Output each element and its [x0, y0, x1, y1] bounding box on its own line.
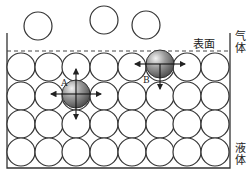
liquid-molecule — [90, 138, 118, 166]
liquid-molecule — [118, 110, 146, 138]
liquid-molecule — [35, 110, 63, 138]
molecule-diagram-canvas — [0, 0, 249, 177]
liquid-molecule — [201, 82, 229, 110]
liquid-molecule — [201, 138, 229, 166]
liquid-molecule — [173, 82, 201, 110]
liquid-molecule — [173, 138, 201, 166]
liquid-molecule — [173, 53, 201, 81]
liquid-molecule — [118, 53, 146, 81]
liquid-molecule — [35, 82, 63, 110]
diagram: 表面 气体 液体 A B — [0, 0, 249, 177]
liquid-molecule — [90, 110, 118, 138]
liquid-molecule — [35, 53, 63, 81]
gas-molecule — [132, 11, 160, 39]
liquid-molecule — [146, 138, 174, 166]
liquid-molecule — [7, 110, 35, 138]
liquid-molecule — [90, 53, 118, 81]
liquid-molecule — [146, 110, 174, 138]
gas-label: 气体 — [234, 30, 245, 54]
gas-molecules — [24, 6, 160, 40]
liquid-molecule — [118, 82, 146, 110]
gas-molecule — [24, 12, 52, 40]
liquid-molecule — [201, 110, 229, 138]
liquid-label: 液体 — [234, 142, 245, 166]
liquid-molecule — [7, 138, 35, 166]
liquid-molecule — [201, 53, 229, 81]
gas-molecule — [90, 6, 118, 34]
liquid-molecule — [7, 53, 35, 81]
liquid-molecule — [62, 138, 90, 166]
liquid-molecule — [173, 110, 201, 138]
liquid-molecule — [90, 82, 118, 110]
liquid-molecule — [118, 138, 146, 166]
liquid-molecule — [35, 138, 63, 166]
liquid-molecules — [7, 53, 229, 166]
molecule-b-label: B — [143, 76, 150, 85]
surface-label: 表面 — [193, 39, 215, 50]
liquid-molecule — [7, 82, 35, 110]
molecule-a-label: A — [61, 79, 68, 88]
